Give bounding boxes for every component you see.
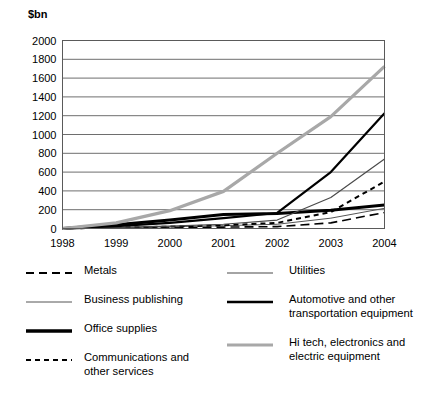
data-series-lines (63, 66, 385, 228)
y-axis-tick-label: 2000 (32, 35, 56, 47)
series-line (63, 66, 385, 228)
legend-label: Automotive and other transportation equi… (289, 292, 427, 320)
legend-entry[interactable]: Office supplies (26, 321, 221, 345)
chart-page: $bn 200018001600140012001000800600400200… (0, 0, 428, 399)
legend-label: Hi tech, electronics and electric equipm… (289, 335, 427, 363)
legend-line-swatch-icon (227, 340, 273, 350)
chart-legend: MetalsBusiness publishingOffice supplies… (0, 263, 428, 399)
legend-entry[interactable]: Utilities (227, 263, 427, 287)
legend-line-swatch-icon (227, 268, 273, 278)
y-axis-tick-label: 1200 (32, 110, 56, 122)
legend-label: Communications and other services (84, 350, 221, 378)
y-axis-tick-label: 400 (38, 185, 56, 197)
legend-label: Office supplies (84, 321, 221, 335)
x-axis-tick-label: 2002 (265, 237, 289, 249)
y-axis-tick-label: 0 (50, 223, 56, 235)
y-axis-tick-label: 1000 (32, 129, 56, 141)
legend-entry[interactable]: Metals (26, 263, 221, 287)
x-axis-tick-label: 1998 (50, 237, 74, 249)
legend-label: Metals (84, 263, 221, 277)
legend-entry[interactable]: Communications and other services (26, 350, 221, 378)
gridlines (63, 41, 385, 229)
legend-line-swatch-icon (227, 297, 273, 307)
legend-line-swatch-icon (26, 297, 72, 307)
legend-entry[interactable]: Automotive and other transportation equi… (227, 292, 427, 320)
y-axis-tick-label: 1600 (32, 72, 56, 84)
x-axis-tick-label: 2000 (158, 237, 182, 249)
x-axis-tick-label: 2004 (372, 237, 396, 249)
legend-entry[interactable]: Hi tech, electronics and electric equipm… (227, 335, 427, 363)
x-axis-tick-label: 1999 (104, 237, 128, 249)
y-axis-tick-labels: 2000180016001400120010008006004002000 (32, 35, 56, 235)
legend-entry[interactable]: Business publishing (26, 292, 221, 316)
y-axis-tick-label: 1400 (32, 91, 56, 103)
y-axis-tick-label: 1800 (32, 53, 56, 65)
legend-line-swatch-icon (26, 268, 72, 278)
x-axis-tick-labels: 1998199920002001200220032004 (50, 237, 396, 249)
legend-line-swatch-icon (26, 355, 72, 365)
legend-label: Business publishing (84, 292, 221, 306)
line-chart: 2000180016001400120010008006004002000 19… (0, 0, 428, 263)
y-axis-tick-label: 600 (38, 166, 56, 178)
x-axis-tick-label: 2003 (319, 237, 343, 249)
y-axis-tick-label: 200 (38, 204, 56, 216)
legend-line-swatch-icon (26, 326, 72, 336)
x-axis-tick-label: 2001 (211, 237, 235, 249)
y-axis-tick-label: 800 (38, 147, 56, 159)
legend-label: Utilities (289, 263, 427, 277)
series-line (63, 113, 385, 228)
